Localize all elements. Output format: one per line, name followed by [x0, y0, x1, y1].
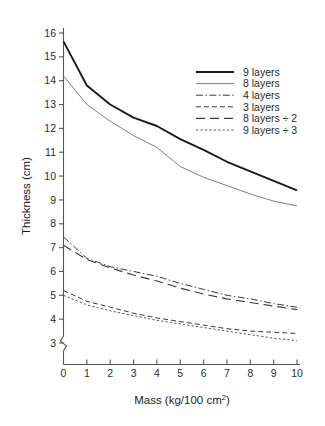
legend-label-5: 9 layers ÷ 3	[243, 124, 297, 136]
y-tick-label-13: 13	[44, 98, 56, 110]
x-tick-label-10: 10	[291, 367, 303, 379]
x-tick-label-3: 3	[131, 367, 137, 379]
x-tick-label-7: 7	[224, 367, 230, 379]
x-tick-label-2: 2	[107, 367, 113, 379]
legend-label-0: 9 layers	[243, 66, 280, 78]
x-axis-title-tail: )	[226, 394, 230, 406]
curve-series-3	[64, 291, 298, 334]
x-tick-marks	[64, 360, 298, 365]
legend-label-1: 8 layers	[243, 77, 280, 89]
y-tick-label-11: 11	[45, 146, 56, 158]
x-tick-label-6: 6	[201, 367, 207, 379]
y-tick-label-16: 16	[44, 27, 56, 39]
curve-series-2	[64, 237, 298, 307]
curve-series-5	[64, 295, 298, 340]
x-tick-label-4: 4	[154, 367, 160, 379]
y-tick-label-15: 15	[44, 50, 56, 62]
y-tick-label-12: 12	[44, 122, 56, 134]
x-axis-title-base: Mass (kg/100 cm	[134, 394, 222, 406]
x-tick-label-9: 9	[271, 367, 277, 379]
curve-series-4	[64, 245, 298, 309]
y-tick-label-5: 5	[50, 289, 56, 301]
y-tick-label-8: 8	[50, 217, 56, 229]
y-axis-title: Thickness (cm)	[20, 157, 32, 235]
legend-label-4: 8 layers ÷ 2	[243, 112, 297, 124]
chart-figure: 345678910111213141516 012345678910 Thick…	[0, 0, 325, 426]
y-tick-label-6: 6	[50, 265, 56, 277]
y-tick-label-4: 4	[50, 313, 56, 325]
y-tick-label-9: 9	[50, 194, 56, 206]
legend-label-2: 4 layers	[243, 89, 280, 101]
x-axis-title: Mass (kg/100 cm2)	[134, 393, 230, 406]
x-tick-label-5: 5	[177, 367, 183, 379]
y-tick-marks	[59, 33, 64, 343]
y-tick-label-10: 10	[44, 170, 56, 182]
chart-legend: 9 layers8 layers4 layers3 layers8 layers…	[196, 66, 297, 136]
x-tick-labels: 012345678910	[61, 367, 303, 379]
y-tick-label-14: 14	[44, 74, 56, 86]
x-tick-label-1: 1	[84, 367, 90, 379]
y-tick-label-3: 3	[50, 337, 56, 349]
y-tick-labels: 345678910111213141516	[44, 27, 56, 349]
x-tick-label-8: 8	[247, 367, 253, 379]
y-tick-label-7: 7	[50, 241, 56, 253]
x-tick-label-0: 0	[61, 367, 67, 379]
legend-label-3: 3 layers	[243, 101, 280, 113]
line-chart: 345678910111213141516 012345678910 Thick…	[0, 0, 325, 426]
